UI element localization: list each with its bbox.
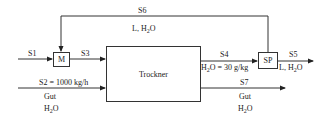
s1-label: S1 — [28, 49, 36, 58]
s2-component-h2o: H2O — [44, 104, 59, 116]
splitter-label: SP — [264, 56, 273, 65]
s6-label: S6 — [138, 6, 146, 15]
dryer-label: Trockner — [139, 70, 168, 79]
s5-components: L, H2O — [279, 63, 302, 75]
mixer-box: M — [53, 52, 70, 67]
dryer-box: Trockner — [106, 46, 201, 102]
s7-label: S7 — [240, 78, 248, 87]
s4-spec: H2O = 30 g/kg — [201, 63, 248, 75]
s7-component-h2o: H2O — [238, 104, 253, 116]
s3-label: S3 — [81, 49, 89, 58]
s6-components: L, H2O — [132, 24, 155, 36]
s2-label: S2 = 1000 kg/h — [39, 78, 88, 87]
s5-label: S5 — [289, 50, 297, 59]
splitter-box: SP — [258, 52, 278, 69]
s2-component-gut: Gut — [44, 92, 56, 101]
s7-component-gut: Gut — [239, 92, 251, 101]
s4-label: S4 — [220, 50, 228, 59]
mixer-label: M — [58, 55, 65, 64]
